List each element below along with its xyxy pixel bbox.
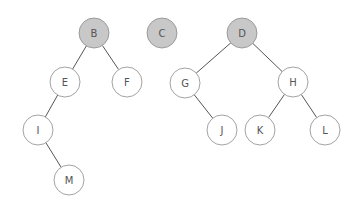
nodes-group: BCDEFGHIJKLM xyxy=(23,18,340,195)
node-label: F xyxy=(124,77,130,88)
node-label: D xyxy=(238,28,246,39)
edge-h-k xyxy=(268,94,284,117)
tree-node-i: I xyxy=(23,115,53,145)
node-label: J xyxy=(220,125,224,136)
tree-node-k: K xyxy=(245,115,275,145)
node-label: M xyxy=(65,175,74,186)
edge-b-f xyxy=(102,45,118,69)
edge-b-e xyxy=(73,46,87,69)
edge-d-h xyxy=(253,43,282,71)
tree-node-d: D xyxy=(227,18,257,48)
node-label: G xyxy=(181,78,189,89)
tree-node-c: C xyxy=(147,18,177,48)
tree-node-g: G xyxy=(170,68,200,98)
edge-i-m xyxy=(46,143,61,168)
node-label: K xyxy=(257,125,264,136)
tree-node-e: E xyxy=(50,67,80,97)
edge-g-j xyxy=(194,95,212,118)
edge-h-l xyxy=(301,94,316,117)
node-label: C xyxy=(159,28,166,39)
node-label: B xyxy=(91,28,98,39)
edge-d-g xyxy=(196,43,230,73)
node-label: H xyxy=(289,77,297,88)
tree-diagram: BCDEFGHIJKLM xyxy=(0,0,360,211)
edge-e-i xyxy=(45,95,57,117)
tree-node-j: J xyxy=(207,115,237,145)
tree-node-h: H xyxy=(278,67,308,97)
tree-node-f: F xyxy=(112,67,142,97)
tree-node-b: B xyxy=(79,18,109,48)
node-label: I xyxy=(37,125,40,136)
node-label: L xyxy=(322,125,328,136)
node-label: E xyxy=(62,77,68,88)
edges-group xyxy=(45,43,316,167)
tree-node-m: M xyxy=(54,165,84,195)
tree-node-l: L xyxy=(310,115,340,145)
